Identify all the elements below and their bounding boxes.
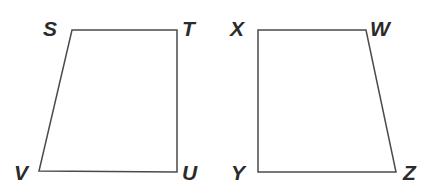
vertex-label-x: X: [230, 18, 244, 39]
vertex-label-z: Z: [403, 162, 416, 183]
vertex-label-w: W: [370, 18, 390, 39]
quadrilateral-wxyz: [258, 30, 396, 172]
vertex-label-t: T: [182, 18, 195, 39]
geometry-figure: S T U V X W Z Y: [0, 0, 428, 194]
vertex-label-y: Y: [231, 162, 245, 183]
vertex-label-u: U: [182, 162, 197, 183]
vertex-label-v: V: [14, 162, 28, 183]
quadrilateral-stuv: [39, 30, 177, 172]
figure-canvas: [0, 0, 428, 194]
vertex-label-s: S: [43, 18, 57, 39]
